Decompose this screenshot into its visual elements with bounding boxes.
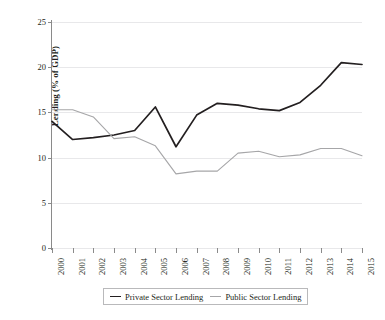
series-line xyxy=(52,63,362,147)
x-axis-tick xyxy=(197,248,198,253)
x-axis-tick xyxy=(73,248,74,253)
x-axis-tick-label: 2004 xyxy=(139,258,149,275)
x-axis-tick-label: 2009 xyxy=(242,258,252,275)
series-lines xyxy=(52,22,362,248)
x-axis-tick-label: 2000 xyxy=(56,258,66,275)
x-axis-tick xyxy=(259,248,260,253)
legend-item-public[interactable]: Public Sector Lending xyxy=(210,292,301,302)
y-axis-tick-label: 5 xyxy=(42,198,46,208)
y-axis-tick-label: 15 xyxy=(38,107,47,117)
x-axis-tick-label: 2015 xyxy=(366,258,376,275)
chart-legend: Private Sector Lending Public Sector Len… xyxy=(103,288,308,305)
x-axis-tick-label: 2008 xyxy=(221,258,231,275)
x-axis-tick xyxy=(176,248,177,253)
x-axis-tick-label: 2002 xyxy=(97,258,107,275)
y-axis-tick-label: 25 xyxy=(38,17,47,27)
legend-label-public: Public Sector Lending xyxy=(225,292,301,302)
x-axis-tick-label: 2013 xyxy=(325,258,335,275)
x-axis-tick xyxy=(238,248,239,253)
line-swatch-icon xyxy=(210,296,221,297)
legend-item-private[interactable]: Private Sector Lending xyxy=(110,292,203,302)
x-axis-tick xyxy=(300,248,301,253)
x-axis-tick xyxy=(279,248,280,253)
x-axis-tick xyxy=(362,248,363,253)
x-axis-tick-label: 2006 xyxy=(180,258,190,275)
chart-figure: Lending (% of GDP) 0510152025 2000200120… xyxy=(0,0,385,320)
x-axis-tick xyxy=(93,248,94,253)
x-axis-tick-label: 2007 xyxy=(201,258,211,275)
x-axis-tick-label: 2001 xyxy=(77,258,87,275)
x-axis-tick xyxy=(114,248,115,253)
x-axis-tick-label: 2010 xyxy=(263,258,273,275)
y-axis-tick-label: 10 xyxy=(38,153,47,163)
series-line xyxy=(52,110,362,174)
line-swatch-icon xyxy=(110,296,121,297)
x-axis-tick-label: 2011 xyxy=(283,258,293,275)
gridline xyxy=(52,248,362,249)
x-axis-tick xyxy=(52,248,53,253)
x-axis-tick-label: 2003 xyxy=(118,258,128,275)
x-axis-tick xyxy=(217,248,218,253)
x-axis-tick xyxy=(341,248,342,253)
x-axis-tick xyxy=(321,248,322,253)
x-axis-tick xyxy=(155,248,156,253)
x-axis-tick-label: 2012 xyxy=(304,258,314,275)
x-axis-tick-label: 2005 xyxy=(159,258,169,275)
x-axis-tick xyxy=(135,248,136,253)
y-axis-tick-label: 20 xyxy=(38,62,47,72)
x-axis-tick-label: 2014 xyxy=(345,258,355,275)
y-axis-tick-label: 0 xyxy=(42,243,46,253)
legend-label-private: Private Sector Lending xyxy=(125,292,203,302)
plot-area: 0510152025 20002001200220032004200520062… xyxy=(52,22,362,248)
